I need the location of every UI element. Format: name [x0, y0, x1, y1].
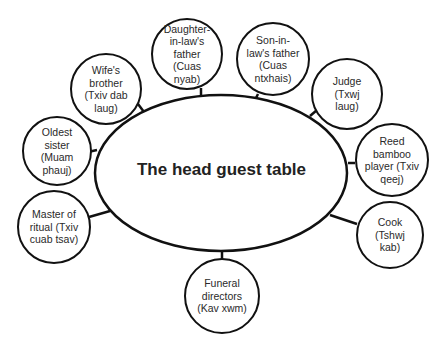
node-funeral-directors: Funeral directors (Kav xwm) [184, 258, 260, 334]
connector-master-of-ritual [89, 211, 110, 217]
node-label: Funeral directors (Kav xwm) [191, 277, 253, 315]
node-reed-bamboo-player: Reed bamboo player (Txiv qeej) [355, 123, 429, 197]
node-son-in-laws-father: Son-in- law's father (Cuas ntxhais) [236, 22, 310, 96]
node-label: Master of ritual (Txiv cuab tsav) [24, 208, 84, 246]
node-judge: Judge (Txwj laug) [311, 58, 383, 130]
node-label: Reed bamboo player (Txiv qeej) [359, 135, 425, 185]
node-oldest-sister: Oldest sister (Muam phauj) [22, 116, 92, 186]
node-label: Daughter- in-law's father (Cuas nyab) [153, 23, 221, 86]
node-cook: Cook (Tshwj kab) [356, 201, 424, 269]
node-wifes-brother: Wife's brother (Txiv dab laug) [70, 53, 142, 125]
node-daughter-in-laws-father: Daughter- in-law's father (Cuas nyab) [151, 18, 223, 90]
node-label: Son-in- law's father (Cuas ntxhais) [241, 34, 306, 84]
node-master-of-ritual: Master of ritual (Txiv cuab tsav) [17, 190, 91, 264]
connector-cook [330, 215, 357, 224]
node-label: Cook (Tshwj kab) [358, 216, 422, 254]
node-label: Wife's brother (Txiv dab laug) [78, 64, 133, 114]
node-label: Judge (Txwj laug) [313, 75, 381, 113]
center-label: The head guest table [95, 160, 348, 180]
node-label: Oldest sister (Muam phauj) [35, 126, 80, 176]
